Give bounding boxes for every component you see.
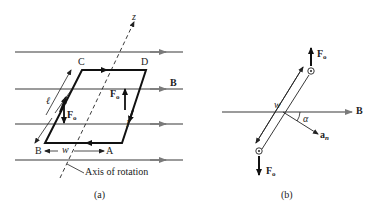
- axis-leader: [67, 164, 84, 173]
- caption-b: (b): [281, 190, 293, 200]
- field-b-label-b: B: [356, 106, 363, 116]
- angle-label: α: [303, 114, 308, 124]
- current-arrows: [60, 70, 133, 143]
- corner-a-label: A: [106, 146, 113, 156]
- rotation-axis: [60, 22, 134, 178]
- coil-side-view: [256, 67, 309, 149]
- width-label-a: w: [62, 145, 69, 155]
- conductor-top: [308, 68, 314, 74]
- corner-b-label: B: [35, 146, 42, 156]
- conductor-bottom: [256, 148, 262, 154]
- corner-d-label: D: [141, 57, 148, 67]
- force-label-bottom-b: Fo: [266, 166, 276, 178]
- normal-vector: [283, 112, 318, 134]
- current-loop: [45, 70, 146, 143]
- force-label-top-b: Fo: [317, 49, 327, 61]
- width-label-b: w: [274, 100, 281, 110]
- axis-of-rotation-label: Axis of rotation: [85, 167, 148, 177]
- normal-label: an: [320, 130, 329, 142]
- length-dimension: [35, 70, 72, 143]
- caption-a: (a): [94, 190, 105, 200]
- diagram-canvas: [0, 0, 376, 208]
- length-label: ℓ: [46, 96, 50, 106]
- field-b-label-a: B: [170, 78, 177, 88]
- force-label-right: Fo: [110, 89, 120, 101]
- angle-arc: [297, 112, 300, 121]
- corner-c-label: C: [78, 57, 85, 67]
- current-label: I: [126, 119, 129, 129]
- force-label-left: Fo: [67, 110, 77, 122]
- axis-z-label: z: [132, 12, 136, 22]
